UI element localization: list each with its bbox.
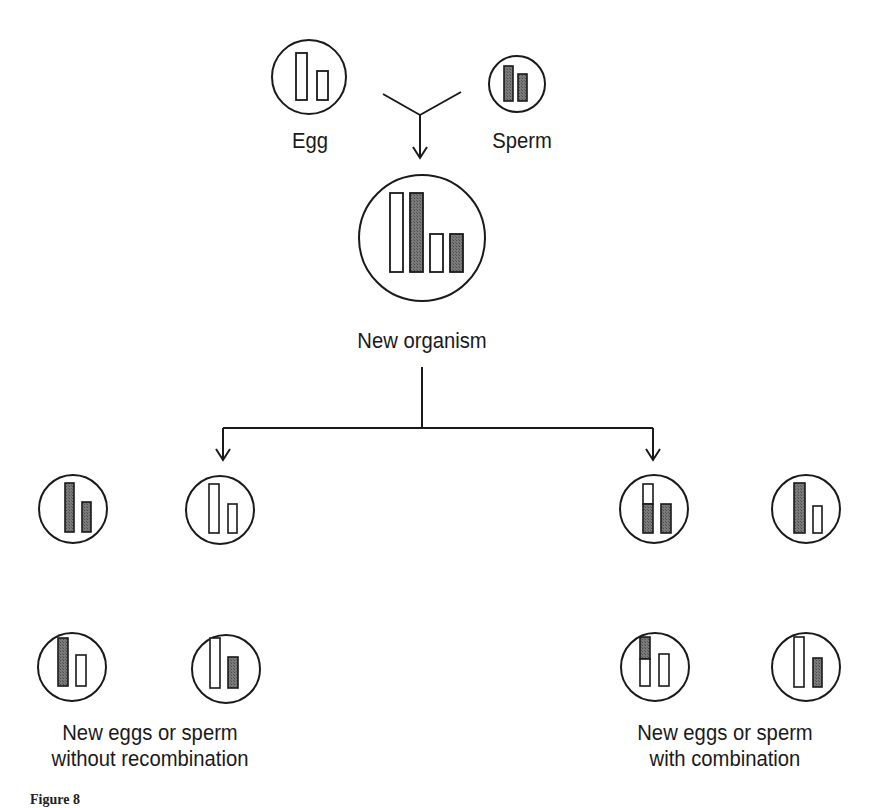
chromosome-long-shaded xyxy=(504,66,513,101)
without-recombination-label-line1: New eggs or sperm xyxy=(30,720,269,746)
gamete-without-4 xyxy=(192,635,260,703)
chromosome-short-shaded xyxy=(450,234,463,272)
gamete-with-3 xyxy=(621,633,689,701)
chromosome-long-open xyxy=(296,53,307,100)
chromosome-long-open xyxy=(390,193,403,272)
with-combination-label-line2: with combination xyxy=(610,746,840,772)
chromosome-long-shaded xyxy=(410,193,423,272)
figure-caption: Figure 8 xyxy=(30,792,80,808)
gamete-without-1 xyxy=(39,475,107,543)
sperm-label: Sperm xyxy=(483,128,560,154)
new-organism-label: New organism xyxy=(347,328,498,354)
egg-cell xyxy=(272,40,346,114)
fertilization-arrow xyxy=(383,92,461,158)
sperm-cell xyxy=(489,56,545,112)
gamete-with-4 xyxy=(772,633,840,701)
chromosome-short-open xyxy=(317,71,328,100)
gamete-without-2 xyxy=(186,476,254,544)
without-recombination-label-line2: without recombination xyxy=(30,746,269,772)
meiosis-branch-arrows xyxy=(216,367,660,460)
with-combination-label-line1: New eggs or sperm xyxy=(610,720,840,746)
gamete-with-2 xyxy=(772,475,840,543)
chromosome-short-open xyxy=(430,234,443,272)
gamete-with-1 xyxy=(620,475,688,543)
chromosome-short-shaded xyxy=(518,74,527,101)
new-organism-cell xyxy=(359,175,485,301)
gamete-without-3 xyxy=(38,633,106,701)
egg-label: Egg xyxy=(281,128,340,154)
